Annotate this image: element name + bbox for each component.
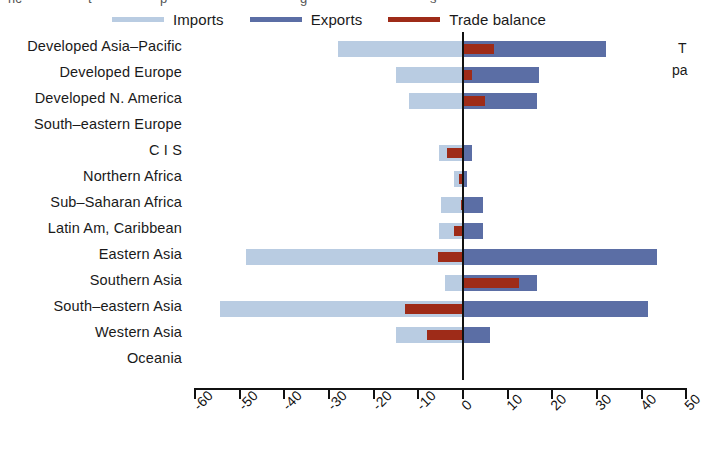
plot-area: Developed Asia–PacificDeveloped EuropeDe…: [0, 36, 705, 388]
category-label: Developed N. America: [0, 90, 182, 106]
legend-label: Exports: [311, 11, 363, 28]
category-label: Northern Africa: [0, 168, 182, 184]
clipped-side-fragment: pa: [672, 62, 688, 78]
category-label: C I S: [0, 142, 182, 158]
bar-exports: [463, 197, 483, 213]
bar-exports: [463, 145, 472, 161]
bar-imports: [409, 93, 463, 109]
bar-trade-balance: [463, 70, 472, 80]
chart-row: Southern Asia: [0, 270, 705, 296]
clipped-text-fragment: g: [300, 0, 307, 6]
clipped-side-fragment: T: [678, 40, 687, 56]
chart-row: Developed Asia–Pacific: [0, 36, 705, 62]
line-swatch-trade-balance: [388, 17, 440, 22]
category-label: South–eastern Europe: [0, 116, 182, 132]
chart-row: Oceania: [0, 348, 705, 374]
clipped-text-fragment: t: [88, 0, 92, 6]
bar-rows: Developed Asia–PacificDeveloped EuropeDe…: [0, 36, 705, 374]
legend-item-imports: Imports: [112, 11, 224, 28]
chart-row: Eastern Asia: [0, 244, 705, 270]
category-label: South–eastern Asia: [0, 298, 182, 314]
x-axis-line: [195, 388, 686, 390]
category-label: Eastern Asia: [0, 246, 182, 262]
clipped-side-text: Tpa: [672, 40, 705, 90]
zero-axis-line: [462, 32, 464, 380]
bar-trade-balance: [405, 304, 463, 314]
chart-row: South–eastern Europe: [0, 114, 705, 140]
bar-imports: [396, 67, 463, 83]
clipped-text-fragment: p: [160, 0, 167, 6]
category-label: Developed Asia–Pacific: [0, 38, 182, 54]
bar-imports: [338, 41, 463, 57]
chart-row: Sub–Saharan Africa: [0, 192, 705, 218]
category-label: Latin Am, Caribbean: [0, 220, 182, 236]
bar-exports: [463, 223, 483, 239]
legend-item-trade-balance: Trade balance: [388, 11, 546, 28]
bar-imports: [441, 197, 463, 213]
chart-row: Northern Africa: [0, 166, 705, 192]
chart-row: South–eastern Asia: [0, 296, 705, 322]
bar-exports: [463, 301, 648, 317]
bar-trade-balance: [463, 96, 485, 106]
clipped-text-fragment: s: [430, 0, 437, 6]
x-axis-tick-label: 0: [458, 396, 475, 413]
bar-trade-balance: [438, 252, 463, 262]
clipped-text-fragment: ric: [8, 0, 22, 6]
category-label: Western Asia: [0, 324, 182, 340]
chart-legend: ImportsExportsTrade balance: [112, 8, 546, 30]
category-label: Developed Europe: [0, 64, 182, 80]
chart-row: Latin Am, Caribbean: [0, 218, 705, 244]
bar-trade-balance: [463, 44, 494, 54]
category-label: Oceania: [0, 350, 182, 366]
bar-trade-balance: [447, 148, 463, 158]
bar-imports: [445, 275, 463, 291]
bar-exports: [463, 327, 490, 343]
bar-trade-balance: [463, 278, 519, 288]
chart-row: Developed Europe: [0, 62, 705, 88]
chart-row: Western Asia: [0, 322, 705, 348]
chart-row: Developed N. America: [0, 88, 705, 114]
chart-row: C I S: [0, 140, 705, 166]
bar-exports: [463, 249, 657, 265]
line-swatch-exports: [250, 17, 302, 22]
bar-imports: [246, 249, 463, 265]
x-axis: -60-50-40-30-20-1001020304050: [0, 388, 705, 449]
trade-balance-chart: rictpgs ImportsExportsTrade balance Deve…: [0, 0, 705, 449]
category-label: Sub–Saharan Africa: [0, 194, 182, 210]
bar-exports: [463, 67, 539, 83]
line-swatch-imports: [112, 17, 164, 22]
bar-trade-balance: [427, 330, 463, 340]
category-label: Southern Asia: [0, 272, 182, 288]
legend-label: Trade balance: [449, 11, 546, 28]
legend-label: Imports: [173, 11, 224, 28]
legend-item-exports: Exports: [250, 11, 363, 28]
